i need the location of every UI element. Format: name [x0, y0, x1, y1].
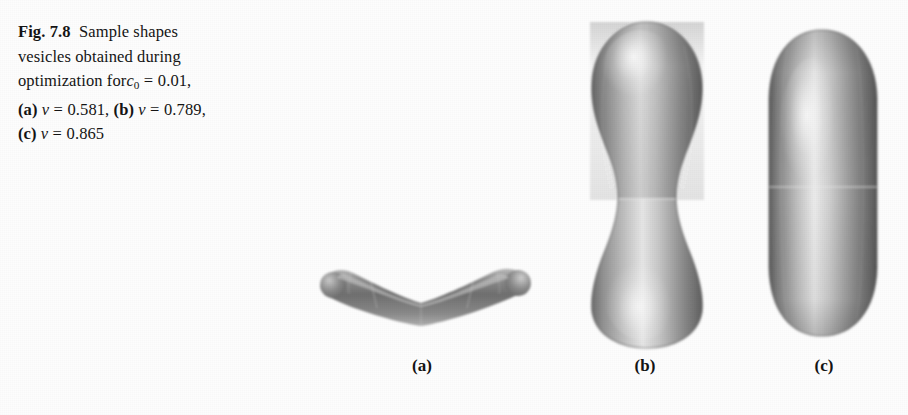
- vesicle-shape-b: [580, 16, 715, 352]
- caption-line-4: (a) ν = 0.581, (b) ν = 0.789,: [18, 98, 268, 123]
- caption-tag-b: (b): [114, 100, 134, 119]
- equals-sign-c0: =: [144, 71, 154, 90]
- caption-line-2: vesicles obtained during: [18, 45, 268, 70]
- caption-line-3-text: optimization for: [18, 71, 126, 90]
- panel-label-b: (b): [615, 356, 675, 376]
- spontaneous-curvature-value: 0.01,: [158, 71, 192, 90]
- panel-label-c: (c): [794, 356, 854, 376]
- caption-line-1: Fig. 7.8 Sample shapes: [18, 20, 268, 45]
- nu-symbol-a: ν: [42, 100, 49, 119]
- caption-line-1-text: Sample shapes: [79, 22, 178, 41]
- panel-label-a: (a): [392, 356, 452, 376]
- equals-sign-a: =: [53, 100, 63, 119]
- caption-line-2-text: vesicles obtained during: [18, 47, 181, 66]
- spontaneous-curvature-subscript: 0: [134, 79, 140, 91]
- spontaneous-curvature-symbol: c: [126, 71, 133, 90]
- caption-tag-c: (c): [18, 124, 37, 143]
- caption-tag-a: (a): [18, 100, 38, 119]
- nu-symbol-b: ν: [138, 100, 145, 119]
- nu-value-a: 0.581,: [68, 100, 110, 119]
- nu-value-b: 0.789,: [164, 100, 206, 119]
- figure-caption: Fig. 7.8 Sample shapes vesicles obtained…: [18, 20, 268, 147]
- figure-number: Fig. 7.8: [18, 22, 71, 41]
- nu-value-c: 0.865: [67, 124, 105, 143]
- caption-line-3: optimization forc0 = 0.01,: [18, 69, 268, 98]
- figure-page: Fig. 7.8 Sample shapes vesicles obtained…: [0, 0, 908, 415]
- caption-line-5: (c) ν = 0.865: [18, 122, 268, 147]
- nu-symbol-c: ν: [41, 124, 48, 143]
- equals-sign-b: =: [150, 100, 160, 119]
- equals-sign-c: =: [53, 124, 63, 143]
- vesicle-shape-a: [315, 258, 540, 338]
- vesicle-shape-c: [760, 24, 888, 344]
